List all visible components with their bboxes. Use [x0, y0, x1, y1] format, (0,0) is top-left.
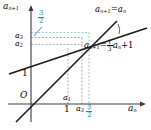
- identity-label-equals: =: [111, 4, 118, 14]
- guide-lines-grey: [31, 38, 82, 105]
- annotation-three-halves-y: 3 2: [38, 10, 44, 25]
- y-tick-a2-sub: 2: [20, 42, 23, 48]
- origin-label: O: [20, 91, 27, 100]
- y-axis-label: an+1: [3, 2, 19, 11]
- identity-line-label: an+1=an: [95, 5, 126, 14]
- recurrence-label-lhs-sub: n+1: [89, 44, 100, 50]
- x-axis-label: an: [128, 104, 137, 113]
- x-axis-label-subscript: n: [133, 107, 136, 113]
- y-axis-arrowhead: [29, 5, 34, 11]
- identity-label-rhs-sub: n: [123, 8, 126, 14]
- annotation-y-numerator: 3: [38, 10, 44, 17]
- x-tick-label-one: 1: [64, 105, 70, 114]
- identity-label-lhs-sub: n+1: [100, 8, 111, 14]
- x-tick-label-a3: a3: [76, 105, 84, 113]
- recurrence-label-equals: =: [100, 40, 107, 50]
- annotation-y-denominator: 2: [38, 17, 44, 25]
- recurrence-line-label: an+1=13an+1: [84, 39, 133, 52]
- recurrence-label-plus-one: +1: [121, 40, 134, 50]
- y-axis-label-subscript: n+1: [8, 5, 19, 11]
- y-tick-label-one: 1: [22, 69, 28, 78]
- x-tick-label-a1: a1: [63, 94, 71, 102]
- x-axis-arrowhead: [140, 102, 146, 107]
- leader-line-three-halves: [34, 27, 42, 36]
- x-tick-a1-sub: 1: [68, 96, 71, 102]
- y-tick-label-a2: a2: [15, 40, 23, 48]
- recurrence-label-var-sub: n: [118, 44, 121, 50]
- leader-arc-recurrence: [118, 24, 120, 34]
- x-tick-a3-sub: 3: [81, 107, 84, 113]
- axes: [8, 9, 140, 122]
- annotation-three-halves-x: 3 2: [86, 104, 92, 119]
- annotation-x-numerator: 3: [86, 104, 92, 111]
- annotation-x-denominator: 2: [86, 111, 92, 119]
- fixed-point-diagram: an+1 an O an+1=an an+1=13an+1 a3 a2 1 3 …: [0, 0, 151, 130]
- recurrence-label-var: a: [113, 40, 118, 50]
